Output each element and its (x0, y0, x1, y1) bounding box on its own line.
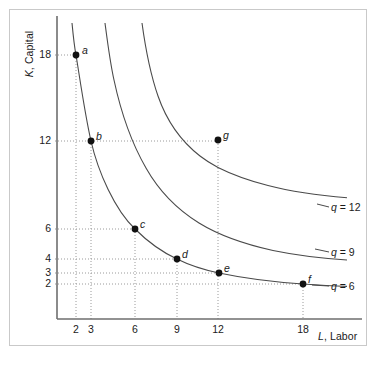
data-point-markers (73, 52, 307, 288)
isoquant-chart-figure: K, Capital L, Labor 18 12 6 4 3 2 2 3 6 … (0, 0, 382, 366)
data-point-d[interactable] (174, 256, 181, 263)
leader-q9 (315, 249, 329, 252)
point-label-d: d (182, 248, 188, 260)
y-tick-label-6: 6 (29, 222, 51, 234)
y-tick-label-18: 18 (29, 48, 51, 60)
x-axis-title: L, Labor (318, 330, 357, 342)
curve-label-q6: q = 6 (331, 280, 355, 292)
y-tick-label-4: 4 (29, 252, 51, 264)
isoquant-curve-q6 (72, 23, 347, 286)
point-label-f: f (308, 273, 311, 285)
point-label-b: b (96, 130, 102, 142)
curve-label-q9: q = 9 (331, 246, 355, 258)
axes (57, 16, 362, 319)
data-point-c[interactable] (132, 226, 139, 233)
curve-label-q9-value: = 9 (337, 246, 355, 258)
chart-plot-area (0, 0, 382, 366)
x-tick-label-3: 3 (81, 323, 101, 335)
point-label-a: a (82, 44, 88, 56)
curve-label-q6-value: = 6 (337, 280, 355, 292)
curve-label-q12: q = 12 (331, 201, 361, 213)
guide-lines-horizontal (55, 55, 303, 284)
x-tick-label-12: 12 (208, 323, 228, 335)
point-label-g: g (223, 129, 229, 141)
x-axis-title-rest: , Labor (324, 330, 357, 342)
x-tick-label-9: 9 (167, 323, 187, 335)
x-tick-label-6: 6 (125, 323, 145, 335)
data-point-a[interactable] (73, 52, 80, 59)
data-point-g[interactable] (215, 137, 222, 144)
isoquant-curve-q12 (142, 23, 347, 198)
x-tick-label-18: 18 (293, 323, 313, 335)
data-point-e[interactable] (216, 270, 223, 277)
guide-lines-vertical (76, 55, 303, 319)
y-tick-label-12: 12 (29, 134, 51, 146)
y-axis-variable: K (23, 70, 35, 77)
point-label-e: e (224, 262, 230, 274)
curve-label-q12-value: = 12 (337, 201, 361, 213)
data-point-b[interactable] (88, 138, 95, 145)
data-point-f[interactable] (300, 281, 307, 288)
point-label-c: c (140, 218, 145, 230)
y-tick-label-2: 2 (29, 277, 51, 289)
curve-label-leaders (312, 204, 329, 286)
leader-q12 (317, 204, 329, 207)
